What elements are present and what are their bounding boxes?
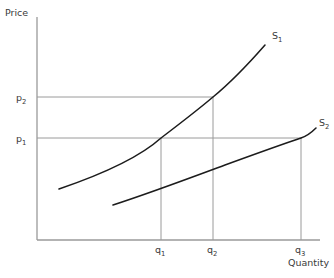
curve-label-s2: S2 <box>319 117 329 131</box>
curve-label-s2-subscript: 2 <box>325 123 329 131</box>
quantity-tick-q1: q1 <box>155 244 165 258</box>
chart-canvas: Price Quantity p2 p1 q1 q2 q3 <box>0 0 334 278</box>
x-axis-title: Quantity <box>288 257 329 268</box>
curve-label-s1-subscript: 1 <box>278 36 282 44</box>
quantity-tick-labels: q1 q2 q3 <box>155 244 305 258</box>
supply-curve-s2 <box>113 128 316 205</box>
price-tick-labels: p2 p1 <box>16 92 26 147</box>
supply-curve-figure: Price Quantity p2 p1 q1 q2 q3 <box>0 0 334 278</box>
quantity-tick-q2-subscript: 2 <box>213 250 217 258</box>
axes-group <box>37 17 320 240</box>
price-tick-p2: p2 <box>16 92 26 106</box>
supply-curve-s1 <box>59 45 265 189</box>
curve-labels: S1 S2 <box>272 30 329 131</box>
supply-curves-group <box>59 45 316 205</box>
price-tick-p2-subscript: 2 <box>22 98 26 106</box>
quantity-guide-lines <box>161 97 301 240</box>
quantity-tick-q3-subscript: 3 <box>301 250 305 258</box>
quantity-tick-q1-subscript: 1 <box>161 250 165 258</box>
quantity-tick-q3: q3 <box>295 244 305 258</box>
curve-label-s1: S1 <box>272 30 282 44</box>
quantity-tick-q2: q2 <box>207 244 217 258</box>
price-tick-p1-subscript: 1 <box>22 139 26 147</box>
price-tick-p1: p1 <box>16 133 26 147</box>
y-axis-title: Price <box>5 7 28 18</box>
